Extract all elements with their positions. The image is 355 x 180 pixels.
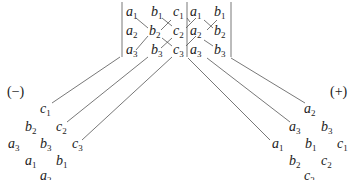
entry-a1: a1 xyxy=(126,5,138,23)
entry-a3: a3 xyxy=(126,43,138,61)
entry-b3: b3 xyxy=(151,43,163,61)
entry-c2: c2 xyxy=(173,24,184,42)
plus-term: c3 xyxy=(304,169,315,180)
plus-term: c2 xyxy=(321,154,332,172)
minus-term: b3 xyxy=(40,137,52,155)
minus-term: a2 xyxy=(40,169,52,180)
minus-label: (−) xyxy=(7,85,24,99)
entry-a1-repeat: a1 xyxy=(190,5,202,23)
plus-term: b2 xyxy=(289,154,301,172)
plus-term: b3 xyxy=(321,120,333,138)
entry-a2: a2 xyxy=(126,24,138,42)
entry-b2: b2 xyxy=(149,24,161,42)
minus-term: b2 xyxy=(25,120,37,138)
entry-a2-repeat: a2 xyxy=(190,24,202,42)
plus-term: c1 xyxy=(337,137,348,155)
minus-term: b1 xyxy=(56,154,68,172)
entry-b2-repeat: b2 xyxy=(214,24,226,42)
plus-label: (+) xyxy=(330,85,347,99)
entry-a3-repeat: a3 xyxy=(190,43,202,61)
entry-b1: b1 xyxy=(151,5,163,23)
plus-term: a1 xyxy=(272,137,284,155)
minus-term: a3 xyxy=(8,137,20,155)
entry-c3: c3 xyxy=(173,43,184,61)
minus-term: a1 xyxy=(25,154,37,172)
entry-b1-repeat: b1 xyxy=(214,5,226,23)
minus-term: c3 xyxy=(72,137,83,155)
plus-term: a3 xyxy=(289,120,301,138)
entry-b3-repeat: b3 xyxy=(214,43,226,61)
minus-term: c2 xyxy=(56,120,67,138)
plus-term: a2 xyxy=(304,102,316,120)
minus-term: c1 xyxy=(40,102,51,120)
plus-term: b1 xyxy=(305,137,317,155)
entry-c1: c1 xyxy=(173,5,184,23)
